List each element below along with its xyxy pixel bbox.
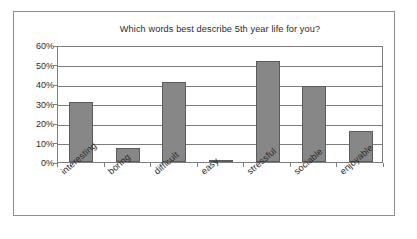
y-axis-tick-label: 30% <box>20 100 54 110</box>
y-axis-tick-label: 60% <box>20 41 54 51</box>
y-axis-tick <box>53 124 57 125</box>
gridline <box>58 66 382 67</box>
bar-chart-figure: Which words best describe 5th year life … <box>0 0 417 239</box>
y-axis-tick <box>53 85 57 86</box>
x-axis-labels: interestingboringdifficulteasystressfuls… <box>0 163 417 223</box>
x-axis-tick <box>336 163 337 167</box>
y-axis-tick-label: 40% <box>20 80 54 90</box>
y-axis-tick-label: 10% <box>20 139 54 149</box>
y-axis-tick <box>53 143 57 144</box>
gridline <box>58 105 382 106</box>
x-axis-tick <box>243 163 244 167</box>
chart-title: Which words best describe 5th year life … <box>57 24 383 34</box>
gridline <box>58 86 382 87</box>
x-axis-tick <box>290 163 291 167</box>
gridline <box>58 125 382 126</box>
y-axis-tick <box>53 65 57 66</box>
y-axis-tick-label: 20% <box>20 119 54 129</box>
gridline <box>58 144 382 145</box>
y-axis-tick-label: 50% <box>20 61 54 71</box>
plot-area <box>57 46 383 163</box>
bar-stressful <box>256 61 280 162</box>
y-axis-labels: 0%10%20%30%40%50%60% <box>20 46 54 163</box>
x-axis-tick <box>383 163 384 167</box>
x-axis-tick <box>57 163 58 167</box>
x-axis-tick <box>197 163 198 167</box>
y-axis-tick <box>53 104 57 105</box>
y-axis-tick <box>53 46 57 47</box>
x-axis-tick <box>150 163 151 167</box>
x-axis-tick <box>104 163 105 167</box>
